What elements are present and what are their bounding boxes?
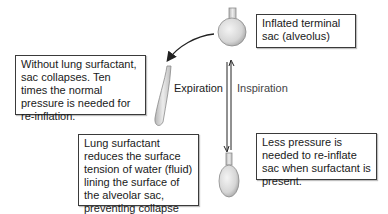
inflated-sac-icon: [218, 8, 246, 46]
surfactant-role-note: Lung surfactant reduces the surface tens…: [78, 134, 199, 206]
without-surfactant-note: Without lung surfactant, sac collapses. …: [15, 55, 146, 115]
reinflating-sac-icon: [219, 153, 239, 197]
less-pressure-note: Less pressure is needed to re-inflate sa…: [256, 133, 377, 180]
expiration-label: Expiration: [174, 82, 223, 95]
inflated-sac-label: Inflated terminal sac (alveolus): [256, 14, 356, 48]
inspiration-label: Inspiration: [237, 82, 288, 95]
collapsed-sac-icon: [155, 66, 171, 125]
collapse-arrow-icon: [168, 34, 214, 60]
